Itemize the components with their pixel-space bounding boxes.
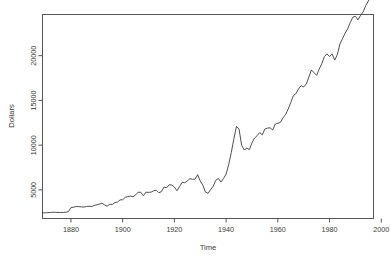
y-axis-title: Dollars <box>7 104 16 128</box>
chart-plot-area: 5000100001500020000 18801900192019401960… <box>0 0 391 263</box>
x-tick-label: 1940 <box>218 225 234 234</box>
x-axis-title: Time <box>200 243 217 252</box>
x-tick-label: 1880 <box>63 225 79 234</box>
x-axis-tick-labels: 1880190019201940196019802000 <box>63 225 389 234</box>
y-tick-label: 5000 <box>29 182 38 198</box>
x-tick-label: 1960 <box>270 225 286 234</box>
line-chart: 5000100001500020000 18801900192019401960… <box>0 0 391 263</box>
y-axis-tick-labels: 5000100001500020000 <box>29 46 38 198</box>
x-tick-label: 1920 <box>166 225 182 234</box>
y-axis-ticks <box>39 56 43 190</box>
y-tick-label: 15000 <box>29 90 38 110</box>
x-tick-label: 1980 <box>322 225 338 234</box>
x-axis-ticks <box>71 219 381 223</box>
x-tick-label: 1900 <box>115 225 131 234</box>
y-tick-label: 20000 <box>29 46 38 66</box>
y-tick-label: 10000 <box>29 135 38 155</box>
data-series-line <box>43 0 371 213</box>
data-series-group <box>43 0 371 213</box>
plot-frame <box>43 15 374 219</box>
x-tick-label: 2000 <box>373 225 389 234</box>
